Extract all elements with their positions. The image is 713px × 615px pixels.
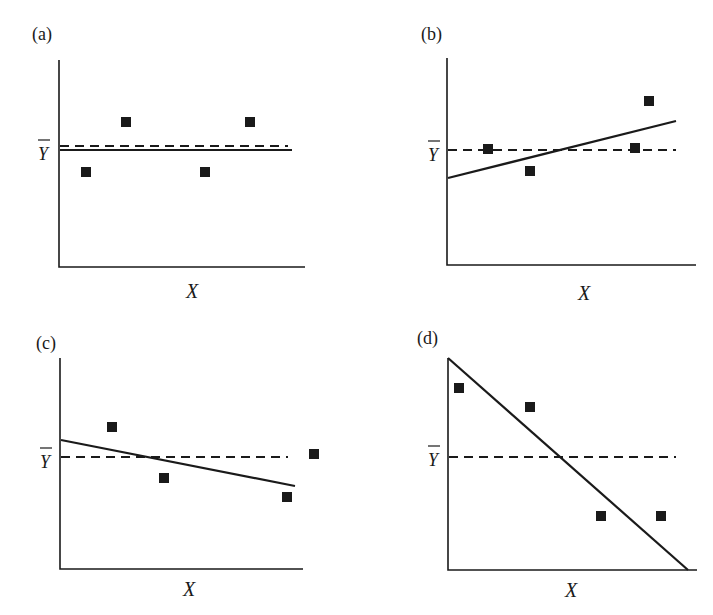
panel-c: (c) Y X: [36, 333, 319, 600]
panel-d-point: [596, 511, 606, 521]
panel-c-point: [309, 449, 319, 459]
panel-b-point: [644, 96, 654, 106]
panel-d-point: [656, 511, 666, 521]
panel-b-ybar-label: Y: [428, 145, 440, 165]
panel-d-x-label: X: [564, 579, 578, 601]
panel-d: (d) Y X: [417, 328, 697, 601]
panel-c-point: [159, 473, 169, 483]
figure-canvas: (a) Y X (b) Y X (c) Y X: [0, 0, 713, 615]
panel-a-axes: [59, 60, 305, 267]
panel-c-ybar-label: Y: [40, 452, 52, 472]
panel-a-point: [81, 167, 91, 177]
panel-a-point: [245, 117, 255, 127]
panel-d-label: (d): [417, 328, 438, 349]
panel-d-point: [525, 402, 535, 412]
panel-a-ybar-label: Y: [38, 144, 50, 164]
panel-b-axes: [447, 58, 696, 265]
panel-c-label: (c): [36, 333, 56, 354]
panel-b-x-label: X: [577, 282, 591, 304]
panel-a-point: [200, 167, 210, 177]
panel-c-x-label: X: [182, 578, 196, 600]
panel-b-label: (b): [421, 24, 442, 45]
panel-b: (b) Y X: [421, 24, 696, 304]
panel-a-point: [121, 117, 131, 127]
panel-d-fit-line: [448, 358, 688, 570]
panel-b-point: [483, 144, 493, 154]
panel-c-point: [282, 492, 292, 502]
panel-a-x-label: X: [185, 280, 199, 302]
panel-d-point: [454, 383, 464, 393]
panel-a: (a) Y X: [32, 24, 305, 302]
panel-b-point: [525, 166, 535, 176]
panel-d-ybar-label: Y: [428, 450, 440, 470]
panel-c-fit-line: [61, 440, 295, 486]
panel-b-point: [630, 143, 640, 153]
panel-a-label: (a): [32, 24, 52, 45]
panel-c-point: [107, 422, 117, 432]
